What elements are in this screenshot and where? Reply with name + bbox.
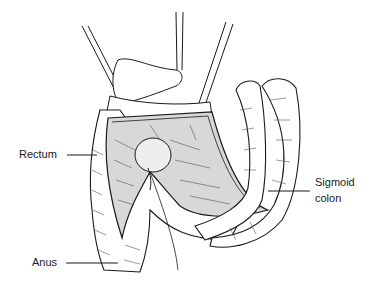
label-colon: colon	[315, 192, 341, 205]
retractor-right	[196, 22, 233, 114]
illustration-canvas: Rectum Anus Sigmoid colon	[0, 0, 374, 286]
label-sigmoid: Sigmoid	[315, 176, 355, 189]
upper-tissue	[106, 59, 212, 120]
label-rectum: Rectum	[19, 148, 57, 161]
anatomical-drawing	[0, 0, 374, 286]
retractor-center	[176, 12, 183, 70]
label-anus: Anus	[32, 256, 57, 269]
